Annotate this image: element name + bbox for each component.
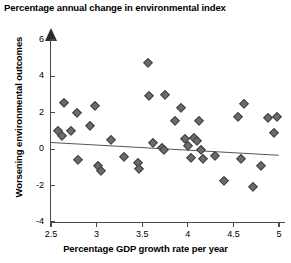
- x-tick-label: 3.5: [127, 229, 157, 239]
- data-point: [96, 166, 106, 176]
- y-tick-label: 0: [18, 143, 44, 153]
- data-point: [170, 116, 180, 126]
- x-axis-line: [50, 222, 285, 223]
- plot-area: 6420-2-4 2.533.544.55: [0, 0, 291, 263]
- data-point: [85, 120, 95, 130]
- y-tick-mark: [50, 39, 55, 40]
- data-point: [233, 112, 243, 122]
- data-point: [159, 145, 169, 155]
- data-point: [71, 108, 81, 118]
- data-point: [66, 126, 76, 136]
- x-tick-label: 4: [173, 229, 203, 239]
- data-point: [239, 99, 249, 109]
- x-tick-label: 4.5: [218, 229, 248, 239]
- data-point: [219, 176, 229, 186]
- y-tick-label: 2: [18, 107, 44, 117]
- data-point: [194, 116, 204, 126]
- x-tick-label: 5: [264, 229, 291, 239]
- data-point: [134, 164, 144, 174]
- x-tick-mark: [50, 222, 51, 227]
- y-tick-mark: [50, 76, 55, 77]
- x-tick-mark: [233, 222, 234, 227]
- x-tick-mark: [187, 222, 188, 227]
- data-point: [198, 154, 208, 164]
- data-point: [269, 128, 279, 138]
- data-point: [248, 182, 258, 192]
- data-point: [119, 152, 129, 162]
- x-tick-label: 3: [82, 229, 112, 239]
- data-point: [73, 155, 83, 165]
- y-tick-label: -4: [18, 216, 44, 226]
- y-tick-label: 4: [18, 70, 44, 80]
- data-point: [272, 112, 282, 122]
- y-tick-mark: [50, 112, 55, 113]
- y-tick-mark: [50, 185, 55, 186]
- data-point: [90, 101, 100, 111]
- y-axis-line: [50, 40, 51, 223]
- x-tick-label: 2.5: [36, 229, 66, 239]
- y-tick-label: 6: [18, 34, 44, 44]
- data-point: [143, 58, 153, 68]
- x-tick-mark: [278, 222, 279, 227]
- data-point: [160, 90, 170, 100]
- data-point: [106, 135, 116, 145]
- scatter-plot-figure: Percentage annual change in environmenta…: [0, 0, 291, 263]
- data-point: [263, 113, 273, 123]
- data-point: [59, 98, 69, 108]
- x-tick-mark: [96, 222, 97, 227]
- data-point: [256, 161, 266, 171]
- data-point: [175, 103, 185, 113]
- y-tick-mark: [50, 149, 55, 150]
- x-tick-mark: [142, 222, 143, 227]
- data-point: [144, 91, 154, 101]
- data-point: [236, 154, 246, 164]
- data-point: [185, 153, 195, 163]
- y-tick-label: -2: [18, 180, 44, 190]
